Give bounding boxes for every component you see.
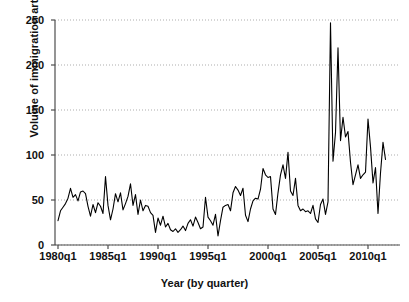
x-tick-marks — [58, 245, 368, 249]
x-tick-label: 2005q1 — [299, 250, 336, 262]
data-line-series — [58, 23, 386, 236]
y-tick-label: 250 — [0, 14, 44, 26]
x-tick-label: 1990q1 — [139, 250, 176, 262]
x-tick-label: 1985q1 — [89, 250, 126, 262]
y-tick-label: 0 — [0, 239, 44, 251]
y-tick-label: 50 — [0, 194, 44, 206]
plot-area — [55, 20, 400, 245]
y-tick-label: 150 — [0, 104, 44, 116]
x-tick-label: 1980q1 — [39, 250, 76, 262]
y-tick-label: 100 — [0, 149, 44, 161]
chart-figure: Volume of immigration articles 0 50 100 … — [0, 0, 409, 302]
x-tick-label: 2000q1 — [249, 250, 286, 262]
y-tick-label: 200 — [0, 59, 44, 71]
chart-svg — [55, 20, 400, 245]
x-axis-title: Year (by quarter) — [0, 277, 409, 289]
x-tick-label: 2010q1 — [349, 250, 386, 262]
x-tick-label: 1995q1 — [189, 250, 226, 262]
